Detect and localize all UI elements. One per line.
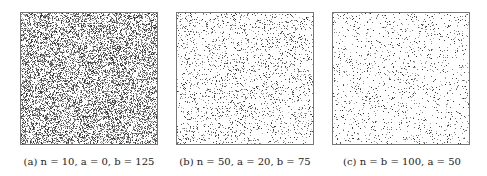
panel-c-noise-plot [332, 12, 470, 145]
caption-c: (c) n = b = 100, a = 50 [317, 156, 487, 167]
caption-b: (b) n = 50, a = 20, b = 75 [160, 156, 330, 167]
panel-b-noise-plot [176, 12, 314, 145]
caption-a: (a) n = 10, a = 0, b = 125 [4, 156, 174, 167]
panel-a-noise-plot [20, 12, 158, 145]
